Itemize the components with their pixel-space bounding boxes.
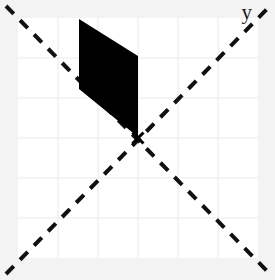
figure-root: y [0,0,275,280]
plot-area: y [18,18,258,258]
y-axis-label: y [242,2,253,23]
